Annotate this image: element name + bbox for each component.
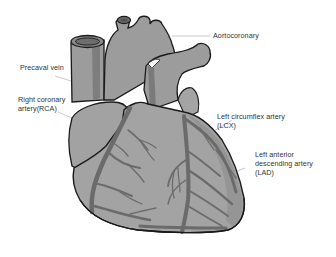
label-rca-line-2: artery(RCA) xyxy=(18,104,65,113)
label-aortocoronary: Aortocoronary xyxy=(213,31,259,40)
label-lcx: Left circumflex artery (LCX) xyxy=(217,112,285,130)
label-lad-line-2: descending artery xyxy=(255,159,313,168)
label-lcx-line-2: (LCX) xyxy=(217,121,285,130)
label-lad-line-3: (LAD) xyxy=(255,168,313,177)
label-rca: Right coronary artery(RCA) xyxy=(18,95,65,113)
label-precaval-vein: Precaval vein xyxy=(20,63,64,72)
label-lad: Left anterior descending artery (LAD) xyxy=(255,150,313,177)
label-aortocoronary-line-1: Aortocoronary xyxy=(213,31,259,40)
label-lad-line-1: Left anterior xyxy=(255,150,313,159)
heart-diagram xyxy=(0,0,336,257)
precaval-vein-shape xyxy=(71,36,104,103)
label-rca-line-1: Right coronary xyxy=(18,95,65,104)
label-lcx-line-1: Left circumflex artery xyxy=(217,112,285,121)
label-precaval-vein-line-1: Precaval vein xyxy=(20,63,64,72)
